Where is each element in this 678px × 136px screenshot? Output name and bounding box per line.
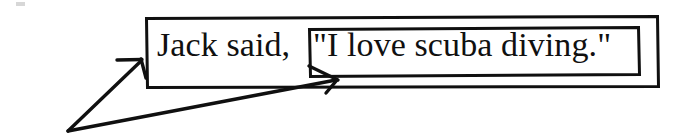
arrow-to-quotation-box: [68, 66, 338, 131]
arrow-to-sentence-box: [68, 59, 146, 131]
quoted-speech-text: "I love scuba diving.": [313, 25, 611, 65]
diagram-canvas: Jack said, "I love scuba diving.": [0, 0, 678, 136]
annotation-lines-layer: [0, 0, 678, 136]
attribution-clause-text: Jack said,: [157, 25, 299, 65]
